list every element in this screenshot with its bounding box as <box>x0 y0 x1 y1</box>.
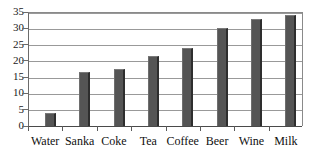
y-axis-tick-label: 0 <box>0 120 24 131</box>
x-axis-tick-label: Water <box>28 133 62 149</box>
y-axis-tick-labels: 05101520253035 <box>0 0 24 130</box>
x-axis-tick <box>234 126 235 131</box>
bar <box>114 69 125 126</box>
x-axis-tick <box>97 126 98 131</box>
y-axis-tick-label: 30 <box>0 22 24 33</box>
x-axis-tick <box>269 126 270 131</box>
x-axis-tick-label: Coke <box>97 133 131 149</box>
x-axis-tick <box>166 126 167 131</box>
bar <box>45 113 56 126</box>
bar <box>79 72 90 126</box>
bar <box>182 48 193 126</box>
bar-chart: 05101520253035 WaterSankaCokeTeaCoffeeBe… <box>0 0 309 165</box>
x-axis-tick <box>28 126 29 131</box>
plot-area <box>28 12 303 126</box>
x-axis-tick-label: Coffee <box>166 133 200 149</box>
bar-series <box>29 13 302 126</box>
bar <box>148 56 159 126</box>
bar <box>217 28 228 126</box>
x-axis-tick-marks <box>28 126 303 131</box>
x-axis-tick <box>131 126 132 131</box>
y-axis-tick-label: 20 <box>0 55 24 66</box>
x-axis-tick-label: Beer <box>200 133 234 149</box>
y-axis-tick-label: 15 <box>0 71 24 82</box>
x-axis-tick <box>62 126 63 131</box>
x-axis-tick <box>200 126 201 131</box>
x-axis-tick-label: Milk <box>269 133 303 149</box>
x-axis-tick-label: Wine <box>234 133 268 149</box>
x-axis-tick-label: Tea <box>131 133 165 149</box>
y-axis-tick-label: 5 <box>0 104 24 115</box>
y-axis-tick-label: 25 <box>0 39 24 50</box>
x-axis-tick-labels: WaterSankaCokeTeaCoffeeBeerWineMilk <box>28 133 303 155</box>
x-axis-tick-label: Sanka <box>62 133 96 149</box>
bar <box>285 15 296 126</box>
y-axis-tick-label: 10 <box>0 87 24 98</box>
bar <box>251 19 262 126</box>
y-axis-tick-label: 35 <box>0 6 24 17</box>
